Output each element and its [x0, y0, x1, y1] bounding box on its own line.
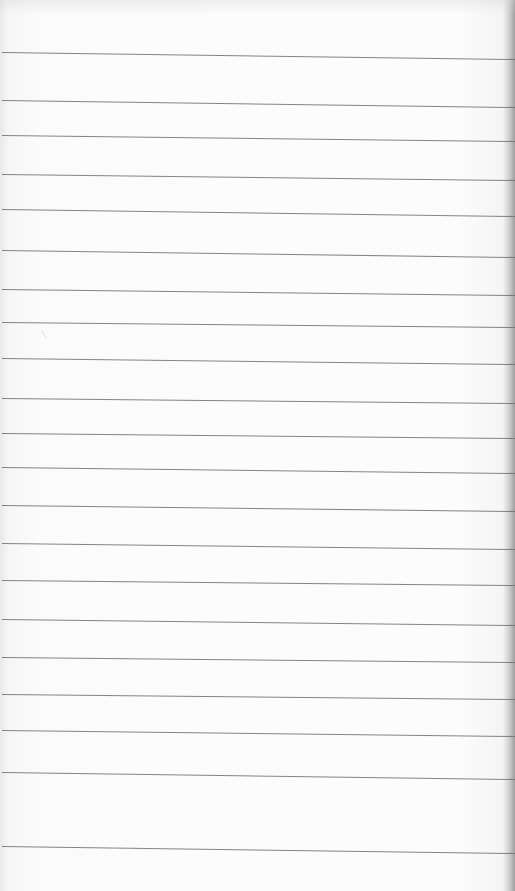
ruled-line: [2, 101, 515, 108]
ruled-line: [2, 323, 515, 328]
ruled-line: [2, 290, 515, 296]
ruled-line: [2, 773, 515, 780]
ruled-line: [2, 399, 515, 404]
ruled-line: [2, 620, 515, 626]
ruled-line: [2, 359, 515, 365]
ruled-line: [2, 581, 515, 586]
ruled-line: [2, 731, 515, 737]
ruled-line: [2, 434, 515, 439]
ruled-line: [2, 468, 515, 474]
ruled-line: [2, 136, 515, 142]
lined-paper: [0, 0, 515, 891]
ruled-line: [2, 658, 515, 663]
ruled-line: [2, 847, 515, 854]
ruled-line: [2, 251, 515, 258]
ruled-line: [2, 544, 515, 550]
ruled-line: [2, 210, 515, 217]
ruled-line: [2, 175, 515, 181]
ruled-lines: [0, 0, 515, 891]
ruled-line: [2, 53, 515, 60]
ruled-line: [2, 695, 515, 700]
ruled-line: [2, 506, 515, 512]
